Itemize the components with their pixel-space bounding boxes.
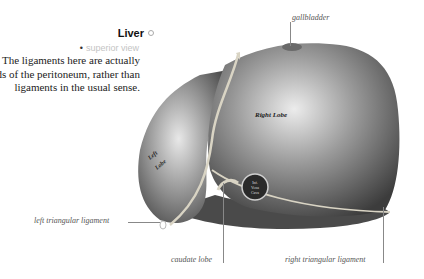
caudate-lobe-leader <box>223 183 224 263</box>
liver-illustration: Inf. Vena Cava Right Lobe Left Lobe <box>0 0 424 279</box>
label-caudate-lobe: caudate lobe <box>171 255 212 264</box>
gallbladder-shape <box>282 43 302 51</box>
label-gallbladder: gallbladder <box>292 13 329 22</box>
svg-text:Right Lobe: Right Lobe <box>254 111 287 119</box>
left-triangular-leader <box>128 222 160 223</box>
gallbladder-leader <box>290 22 291 46</box>
right-triangular-leader <box>383 207 384 263</box>
right-lobe <box>208 43 399 216</box>
svg-text:Cava: Cava <box>251 190 259 195</box>
label-left-triangular-ligament: left triangular ligament <box>34 216 109 225</box>
label-right-triangular-ligament: right triangular ligament <box>285 255 365 264</box>
